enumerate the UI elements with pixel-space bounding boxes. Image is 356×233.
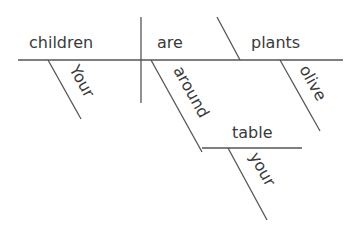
subject-word: children [29,33,93,52]
verb-complement-divider [217,17,240,60]
prepositional-object-word: table [232,123,273,142]
preposition-word: around [170,63,214,121]
complement-word: plants [251,33,300,52]
verb-word: are [157,33,183,52]
subject-modifier-word: Your [65,61,99,101]
sentence-diagram: children are plants table Your olive aro… [0,0,356,233]
object-modifier-word: your [246,149,280,190]
